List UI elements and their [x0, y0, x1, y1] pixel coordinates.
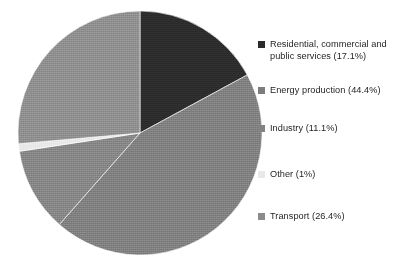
legend-item[interactable]: Industry (11.1%)	[258, 122, 416, 134]
legend-swatch-icon	[258, 213, 265, 220]
legend-item[interactable]: Other (1%)	[258, 168, 416, 180]
pie-slice[interactable]	[18, 11, 140, 144]
legend-item-label: Other (1%)	[270, 168, 315, 180]
pie-slice-group	[18, 11, 262, 255]
chart-legend: Residential, commercial and public servi…	[258, 0, 416, 264]
legend-item-label: Energy production (44.4%)	[270, 84, 381, 96]
pie-chart-figure: Residential, commercial and public servi…	[0, 0, 416, 264]
legend-swatch-icon	[258, 125, 265, 132]
pie-chart-plot-area	[0, 0, 266, 264]
legend-item-label: Transport (26.4%)	[270, 210, 345, 222]
legend-swatch-icon	[258, 171, 265, 178]
legend-item[interactable]: Residential, commercial and public servi…	[258, 38, 416, 63]
legend-item-label: Residential, commercial and public servi…	[270, 38, 387, 63]
legend-item[interactable]: Energy production (44.4%)	[258, 84, 416, 96]
legend-item[interactable]: Transport (26.4%)	[258, 210, 416, 222]
pie-chart-svg	[18, 11, 262, 255]
legend-item-label: Industry (11.1%)	[270, 122, 338, 134]
legend-swatch-icon	[258, 87, 265, 94]
legend-swatch-icon	[258, 41, 265, 48]
